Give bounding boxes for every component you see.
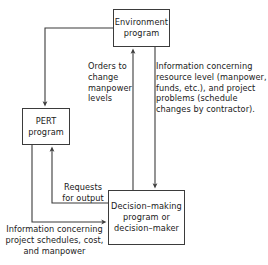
node-environment-line1: Environment (115, 17, 168, 28)
edge-label-orders-change-manpower: Orders to change manpower levels (88, 61, 132, 104)
edge-label-orders-line1: Orders to (88, 61, 132, 72)
edge-label-project-line3: and manpower (2, 246, 107, 257)
edge-label-information-resource-level: Information concerning resource level (m… (156, 61, 267, 115)
edge-label-orders-line3: manpower (88, 83, 132, 94)
diagram-canvas: Environment program PERT program Decisio… (0, 0, 268, 265)
node-decision-line1: Decision–making (111, 201, 182, 212)
edge-label-project-line1: Information concerning (2, 224, 107, 235)
edge-label-requests-line2: for output (58, 193, 108, 204)
node-decision-line2: program or (123, 212, 170, 223)
edge-label-resource-line4: problems (schedule (156, 93, 267, 104)
edge-label-resource-line5: changes by contractor). (156, 104, 267, 115)
node-decision-making[interactable]: Decision–making program or decision–make… (108, 190, 185, 245)
edge-label-project-line2: project schedules, cost, (2, 235, 107, 246)
edge-label-orders-line4: levels (88, 93, 132, 104)
edge-label-resource-line3: funds, etc.), and project (156, 83, 267, 94)
edge-label-requests-for-output: Requests for output (58, 182, 108, 204)
node-decision-line3: decision–maker (114, 223, 179, 234)
node-pert-program[interactable]: PERT program (22, 108, 70, 145)
node-environment-line2: program (124, 28, 160, 39)
edge-label-resource-line1: Information concerning (156, 61, 267, 72)
edge-label-requests-line1: Requests (58, 182, 108, 193)
edge-label-resource-line2: resource level (manpower, (156, 72, 267, 83)
node-environment-program[interactable]: Environment program (113, 9, 170, 47)
edge-label-information-project-schedules: Information concerning project schedules… (2, 224, 107, 256)
node-pert-line2: program (28, 127, 64, 138)
edge-label-orders-line2: change (88, 72, 132, 83)
node-pert-line1: PERT (36, 116, 57, 127)
